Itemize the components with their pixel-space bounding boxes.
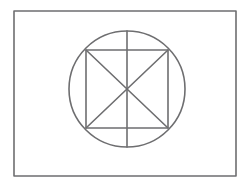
geometric-figure-canvas: [0, 0, 251, 187]
canvas-background: [0, 0, 251, 187]
